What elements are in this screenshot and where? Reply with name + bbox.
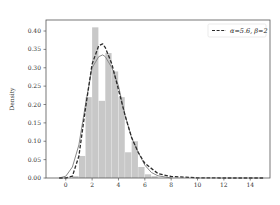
histogram-bar [138,167,144,178]
x-tick-label: 10 [194,181,202,188]
histogram-bar [86,97,92,178]
y-tick-label: 0.00 [28,174,42,181]
y-tick-label: 0.30 [28,64,42,71]
y-tick-label: 0.10 [28,137,42,144]
x-tick-label: 14 [246,181,254,188]
density-chart: 0.000.050.100.150.200.250.300.350.40 024… [0,0,280,205]
y-tick-label: 0.25 [28,82,42,89]
x-tick-label: 4 [117,181,121,188]
y-tick-label: 0.40 [28,27,42,34]
histogram-bar [105,53,111,178]
x-tick-label: 12 [220,181,228,188]
x-tick-label: 2 [90,181,94,188]
legend: α=5.6, β=2 [208,24,268,37]
histogram-bar [92,27,98,178]
y-tick-label: 0.15 [28,119,42,126]
y-axis-label: Density [8,87,16,111]
histogram-bar [99,101,105,178]
histogram-bar [132,141,138,178]
histogram-bar [145,174,151,178]
y-tick-label: 0.35 [28,45,42,52]
x-tick-label: 8 [169,181,173,188]
legend-entry-label: α=5.6, β=2 [230,27,268,35]
x-tick-label: 6 [143,181,147,188]
histogram-bar [125,152,131,178]
histogram-bar [79,156,85,178]
y-tick-label: 0.20 [28,101,42,108]
x-tick-label: 0 [64,181,68,188]
y-tick-label: 0.05 [28,156,42,163]
